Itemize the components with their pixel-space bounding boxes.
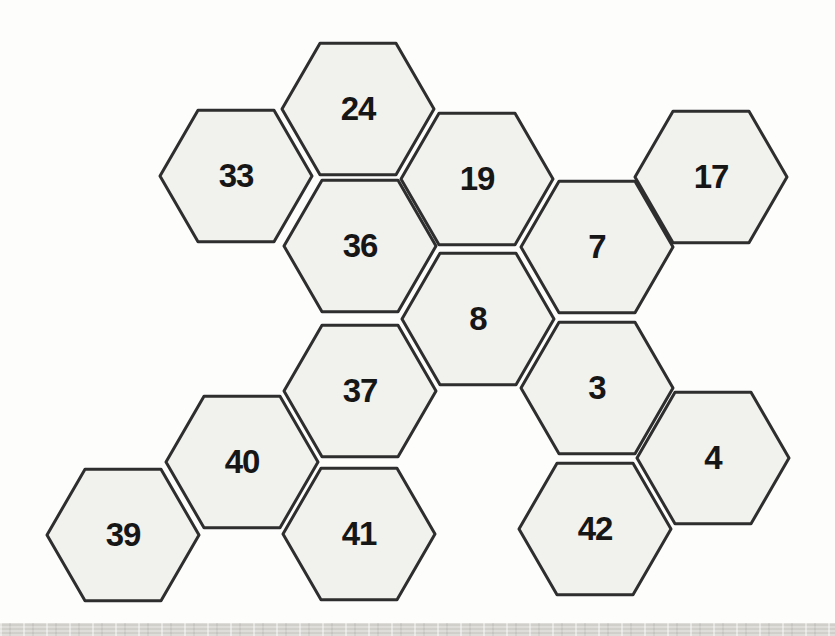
hexagon-label: 3: [588, 369, 606, 406]
hexagon-label: 19: [460, 160, 495, 197]
hexagon-41: 41: [283, 468, 435, 600]
hexagon-label: 8: [469, 300, 487, 337]
hexagon-label: 42: [578, 510, 613, 547]
hexagon-8: 8: [402, 253, 554, 385]
hexagon-42: 42: [519, 463, 671, 595]
hexagon-40: 40: [166, 396, 318, 528]
hexagon-39: 39: [47, 469, 199, 601]
hexagon-24: 24: [282, 43, 434, 175]
hexagon-label: 39: [106, 516, 141, 553]
hexagon-37: 37: [284, 325, 436, 457]
scanned-page: 243319173678373404394142: [0, 0, 835, 636]
hexagon-label: 40: [225, 443, 260, 480]
hexagon-label: 24: [341, 90, 377, 127]
hexagon-label: 37: [343, 372, 378, 409]
hexagon-label: 7: [588, 228, 605, 265]
page-edge-strip: [0, 623, 835, 636]
hexagon-label: 33: [219, 157, 254, 194]
hexagon-diagram: 243319173678373404394142: [0, 0, 835, 636]
hexagon-label: 4: [704, 439, 723, 476]
hexagon-label: 41: [342, 515, 377, 552]
hexagon-label: 17: [694, 158, 729, 195]
hexagon-33: 33: [160, 110, 312, 242]
hexagon-label: 36: [343, 227, 378, 264]
